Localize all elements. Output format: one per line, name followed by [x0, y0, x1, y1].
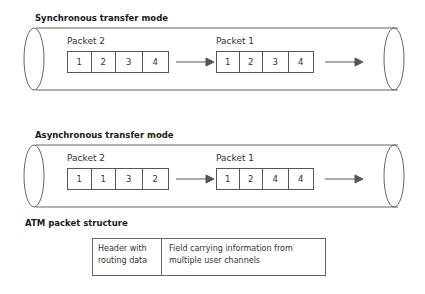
sync-packet2: 1 2 3 4 [67, 51, 169, 73]
cell: 4 [263, 169, 288, 189]
cell: 3 [116, 169, 142, 189]
atm-header-line: Header with [98, 243, 161, 255]
cell: 2 [143, 169, 168, 189]
atm-title: ATM packet structure [25, 218, 128, 228]
cell: 2 [240, 169, 264, 189]
atm-field-line: multiple user channels [169, 255, 325, 267]
atm-packet-structure: Header with routing data Field carrying … [92, 238, 326, 276]
cell: 2 [240, 52, 264, 72]
atm-header-field: Header with routing data [93, 239, 162, 275]
sync-packet2-label: Packet 2 [67, 36, 105, 46]
cell: 2 [92, 52, 117, 72]
cell: 4 [289, 169, 313, 189]
cell: 4 [289, 52, 313, 72]
cell: 4 [143, 52, 168, 72]
cell: 3 [116, 52, 142, 72]
sync-packet1-label: Packet 1 [216, 36, 254, 46]
atm-field-line: Field carrying information from [169, 243, 325, 255]
cell: 1 [217, 52, 240, 72]
async-packet2-label: Packet 2 [67, 153, 105, 163]
cell: 3 [263, 52, 288, 72]
sync-packet1: 1 2 3 4 [216, 51, 314, 73]
async-packet1: 1 2 4 4 [216, 168, 314, 190]
async-packet1-label: Packet 1 [216, 153, 254, 163]
cell: 1 [217, 169, 240, 189]
cell: 1 [92, 169, 117, 189]
atm-payload-field: Field carrying information from multiple… [162, 239, 325, 275]
atm-header-line: routing data [98, 255, 161, 267]
async-packet2: 1 1 3 2 [67, 168, 169, 190]
cell: 1 [68, 169, 92, 189]
async-title: Asynchronous transfer mode [35, 130, 174, 140]
cell: 1 [68, 52, 92, 72]
